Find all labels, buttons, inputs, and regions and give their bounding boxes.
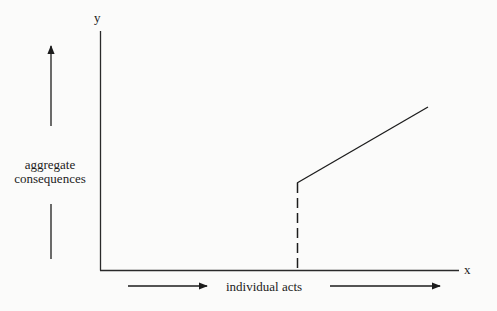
y-axis-label: aggregate consequences — [4, 158, 96, 186]
x-axis-letter: x — [464, 263, 471, 276]
x-axis-label: individual acts — [226, 280, 302, 293]
y-axis-letter: y — [94, 11, 101, 24]
y-axis-label-line2: consequences — [4, 172, 96, 186]
consequence-line — [297, 107, 428, 183]
y-axis-label-line1: aggregate — [4, 158, 96, 172]
threshold-diagram — [0, 0, 497, 311]
